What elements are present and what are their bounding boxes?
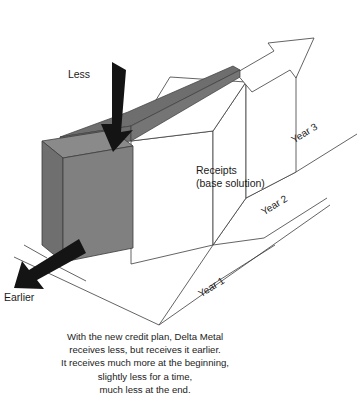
receipts-label-line2: (base solution) — [196, 177, 265, 189]
figure-caption: With the new credit plan, Delta Metal re… — [0, 330, 290, 396]
ground-left-tick-2 — [57, 266, 86, 281]
earlier-label: Earlier — [4, 291, 35, 303]
caption-line-5: much less at the end. — [0, 383, 290, 396]
figure-root: Less Earlier Receipts (base solution) Ye… — [0, 0, 361, 407]
caption-line-2: receives less, but receives it earlier. — [0, 343, 290, 356]
year-label-1: Year 1 — [196, 275, 226, 300]
caption-line-4: slightly less for a time, — [0, 370, 290, 383]
year3-end-floor-divider — [296, 134, 357, 172]
caption-line-3: It receives much more at the beginning, — [0, 356, 290, 369]
gray-box-left-face — [42, 141, 63, 262]
receipts-label-line1: Receipts — [196, 164, 237, 176]
ground-left-tick — [24, 245, 47, 258]
slab-front-face — [131, 131, 213, 264]
less-label: Less — [68, 68, 90, 80]
accelerated-receipts-box — [42, 130, 133, 262]
year-label-2: Year 2 — [259, 193, 289, 218]
caption-line-1: With the new credit plan, Delta Metal — [0, 330, 290, 343]
ground-step-year1 — [213, 238, 264, 245]
